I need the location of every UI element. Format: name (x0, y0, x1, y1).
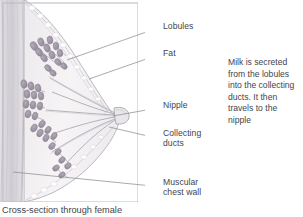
label-fat: Fat (163, 48, 176, 58)
caption-line: from the lobules (228, 69, 302, 81)
milk-secretion-caption: Milk is secreted from the lobules into t… (228, 57, 302, 127)
muscular-chest-wall-region (0, 0, 26, 202)
caption-line: nipple (228, 115, 302, 127)
breast-cross-section-illustration (0, 0, 145, 210)
caption-line: Milk is secreted (228, 57, 302, 69)
caption-line: travels to the (228, 103, 302, 115)
label-muscular-chest-wall: Muscular chest wall (163, 177, 201, 198)
caption-line: into the collecting (228, 80, 302, 92)
label-lobules: Lobules (163, 21, 193, 31)
diagram-canvas: Lobules Fat Nipple Collecting ducts Musc… (0, 0, 303, 217)
caption-line: ducts. It then (228, 92, 302, 104)
label-collecting-ducts: Collecting ducts (163, 128, 201, 149)
label-nipple: Nipple (163, 100, 188, 110)
figure-caption: Cross-section through female (2, 205, 122, 216)
